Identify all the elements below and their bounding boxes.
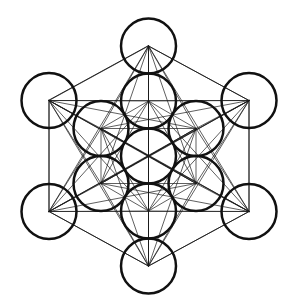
metatrons-cube-figure [0, 0, 292, 308]
metatron-cube-canvas [0, 0, 292, 308]
